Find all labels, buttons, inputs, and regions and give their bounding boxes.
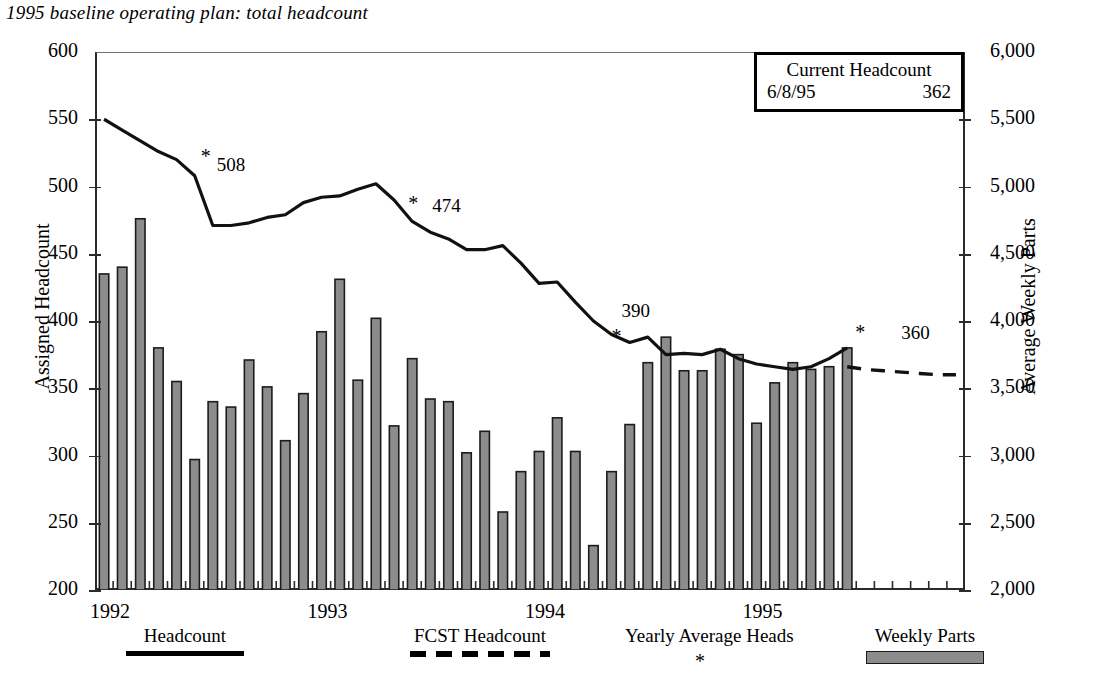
y-tick-mark <box>89 187 101 189</box>
bar <box>262 387 271 590</box>
headcount-line <box>104 119 847 369</box>
bar <box>697 371 706 590</box>
legend-label: FCST Headcount <box>405 626 555 647</box>
right-axis-title: Average Weekly Parts <box>1017 177 1040 437</box>
yearly-average-asterisk: * <box>612 326 622 346</box>
legend-dashed-line-icon <box>410 651 550 657</box>
y-tick-mark <box>959 321 971 323</box>
y-tick-mark <box>89 254 101 256</box>
callout-row: 6/8/95 362 <box>767 81 951 103</box>
x-tick-label: 1994 <box>525 600 565 623</box>
bar <box>752 423 761 590</box>
bar <box>389 426 398 590</box>
y-tick-mark <box>89 590 101 592</box>
callout-title: Current Headcount <box>767 59 951 81</box>
left-tick-label: 550 <box>18 106 78 129</box>
bar-series <box>99 219 852 590</box>
current-headcount-callout: Current Headcount 6/8/95 362 <box>754 52 964 112</box>
yearly-average-asterisk: * <box>408 193 418 213</box>
bar <box>426 399 435 590</box>
bar <box>190 460 199 590</box>
legend-item: Headcount <box>110 626 260 656</box>
bar <box>244 360 253 590</box>
legend-label: Headcount <box>110 626 260 647</box>
legend-item: Weekly Parts <box>850 626 1000 664</box>
bar <box>571 451 580 590</box>
bar <box>208 402 217 590</box>
y-tick-mark <box>959 254 971 256</box>
y-tick-mark <box>959 456 971 458</box>
chart-legend: HeadcountFCST HeadcountYearly Average He… <box>0 626 1095 677</box>
y-tick-mark <box>89 456 101 458</box>
bar <box>444 402 453 590</box>
legend-item: FCST Headcount <box>405 626 555 657</box>
bar <box>824 367 833 590</box>
chart-root: 1995 baseline operating plan: total head… <box>0 0 1095 677</box>
bar <box>589 546 598 590</box>
bar <box>498 512 507 590</box>
bar <box>788 363 797 590</box>
bar <box>643 363 652 590</box>
legend-item: Yearly Average Heads* <box>625 626 775 661</box>
bar <box>371 318 380 590</box>
plot-graphics <box>95 52 965 590</box>
y-tick-mark <box>959 523 971 525</box>
bar <box>480 431 489 590</box>
legend-gray-bar-icon <box>866 651 984 664</box>
bar <box>226 407 235 590</box>
y-tick-mark <box>959 388 971 390</box>
left-axis-title: Assigned Headcount <box>31 177 54 437</box>
yearly-average-asterisk: * <box>855 322 865 342</box>
y-tick-mark <box>959 187 971 189</box>
bar <box>716 349 725 590</box>
y-tick-mark <box>89 321 101 323</box>
right-tick-label: 3,000 <box>990 443 1070 466</box>
bar <box>407 359 416 590</box>
bar <box>679 371 688 590</box>
right-tick-label: 2,500 <box>990 510 1070 533</box>
x-tick-label: 1993 <box>308 600 348 623</box>
left-tick-label: 600 <box>18 39 78 62</box>
legend-solid-line-icon <box>126 651 244 656</box>
right-tick-label: 2,000 <box>990 577 1070 600</box>
annotation-value: 474 <box>432 195 461 217</box>
legend-asterisk-icon: * <box>625 651 775 661</box>
bar <box>353 380 362 590</box>
bar <box>462 453 471 590</box>
bar <box>607 472 616 590</box>
left-tick-label: 200 <box>18 577 78 600</box>
bar <box>806 369 815 590</box>
bar <box>317 332 326 590</box>
y-tick-mark <box>89 523 101 525</box>
legend-label: Yearly Average Heads <box>625 626 775 647</box>
x-tick-label: 1995 <box>743 600 783 623</box>
annotation-value: 508 <box>217 154 246 176</box>
bar <box>154 348 163 590</box>
left-tick-label: 300 <box>18 443 78 466</box>
right-tick-label: 5,500 <box>990 106 1070 129</box>
x-tick-label: 1992 <box>90 600 130 623</box>
bar <box>625 425 634 590</box>
bar <box>117 267 126 590</box>
right-tick-label: 6,000 <box>990 39 1070 62</box>
fcst-headcount-line <box>847 367 956 375</box>
legend-label: Weekly Parts <box>850 626 1000 647</box>
callout-date: 6/8/95 <box>767 81 816 103</box>
bar <box>335 279 344 590</box>
bar <box>136 219 145 590</box>
bar <box>172 382 181 590</box>
bar <box>661 337 670 590</box>
bar <box>734 355 743 590</box>
bar <box>534 451 543 590</box>
bar <box>552 418 561 590</box>
y-tick-mark <box>959 590 971 592</box>
y-tick-mark <box>959 119 971 121</box>
callout-value: 362 <box>923 81 952 103</box>
annotation-value: 360 <box>901 322 930 344</box>
annotation-value: 390 <box>622 300 651 322</box>
left-tick-label: 250 <box>18 510 78 533</box>
yearly-average-asterisk: * <box>201 146 211 166</box>
bar <box>299 394 308 590</box>
bar <box>516 472 525 590</box>
bar <box>842 348 851 590</box>
